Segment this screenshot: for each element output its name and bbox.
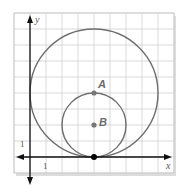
tangent-point: [91, 154, 97, 160]
coordinate-diagram: y x 1 1 A B: [0, 0, 182, 189]
y-axis-arrow-down: [27, 177, 33, 185]
point-b: [91, 122, 96, 127]
y-tick-label: 1: [20, 139, 25, 149]
point-b-label: B: [99, 116, 107, 128]
point-a-label: A: [97, 78, 106, 90]
point-a: [91, 90, 96, 95]
x-tick-label: 1: [43, 161, 48, 171]
y-axis-label: y: [34, 14, 40, 25]
x-axis-label: x: [165, 160, 171, 171]
